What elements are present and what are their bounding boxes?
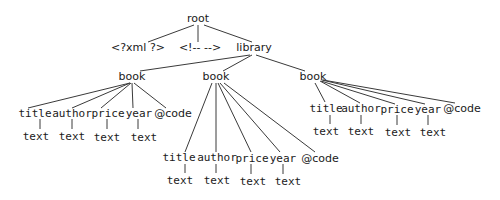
edge-library-book1 [140, 55, 250, 71]
node-b2_price_t: text [240, 175, 267, 188]
edge-book2-b2_price [218, 83, 251, 152]
edge-book3-b3_code [323, 80, 455, 103]
node-b1_author: author [52, 107, 92, 120]
xml-tree-diagram: root<?xml ?><!-- -->librarybookbookbookt… [0, 0, 500, 200]
node-b1_year: year [126, 107, 153, 120]
node-b2_year: year [270, 152, 297, 165]
node-b2_code: @code [301, 152, 339, 165]
node-b3_code: @code [443, 102, 481, 115]
edge-book1-b1_title [28, 83, 130, 108]
node-book1: book [119, 70, 146, 83]
node-b1_title: title [18, 107, 51, 120]
node-b1_year_t: text [131, 131, 158, 144]
edge-book3-b3_title [315, 83, 325, 102]
node-b2_author_t: text [204, 174, 231, 187]
node-b3_author: author [341, 102, 381, 115]
node-library: library [236, 41, 272, 54]
node-b3_author_t: text [348, 125, 375, 138]
node-b3_price_t: text [385, 126, 412, 139]
edge-book1-b1_code [134, 83, 166, 108]
tree-nodes: root<?xml ?><!-- -->librarybookbookbookt… [18, 12, 481, 188]
tree-svg: root<?xml ?><!-- -->librarybookbookbookt… [0, 0, 500, 200]
node-b2_price: price [235, 152, 268, 165]
node-b1_price_t: text [94, 131, 121, 144]
node-b3_title_t: text [313, 125, 340, 138]
edge-book3-b3_price [321, 81, 395, 104]
node-comment: <!-- --> [179, 41, 221, 54]
node-root: root [187, 12, 210, 25]
node-b3_year_t: text [420, 126, 447, 139]
node-b1_code: @code [154, 107, 192, 120]
edge-book2-b2_year [220, 83, 280, 152]
node-b2_year_t: text [275, 175, 302, 188]
node-b1_price: price [91, 107, 124, 120]
node-b2_title: title [162, 151, 195, 164]
node-b2_title_t: text [167, 174, 194, 187]
edge-book2-b2_code [224, 83, 315, 152]
node-book2: book [203, 70, 230, 83]
node-xml: <?xml ?> [111, 41, 165, 54]
node-b1_author_t: text [59, 130, 86, 143]
edge-book1-b1_year [132, 83, 133, 108]
node-book3: book [300, 70, 327, 83]
edge-book3-b3_year [322, 80, 425, 104]
edge-root-xml [148, 25, 194, 42]
edge-library-book2 [223, 55, 252, 71]
edge-library-book3 [256, 55, 305, 71]
node-b2_author: author [197, 151, 237, 164]
node-b3_title: title [309, 102, 342, 115]
node-b1_title_t: text [23, 130, 50, 143]
node-b3_price: price [380, 103, 413, 116]
edge-root-library [204, 25, 252, 42]
node-b3_year: year [415, 103, 442, 116]
